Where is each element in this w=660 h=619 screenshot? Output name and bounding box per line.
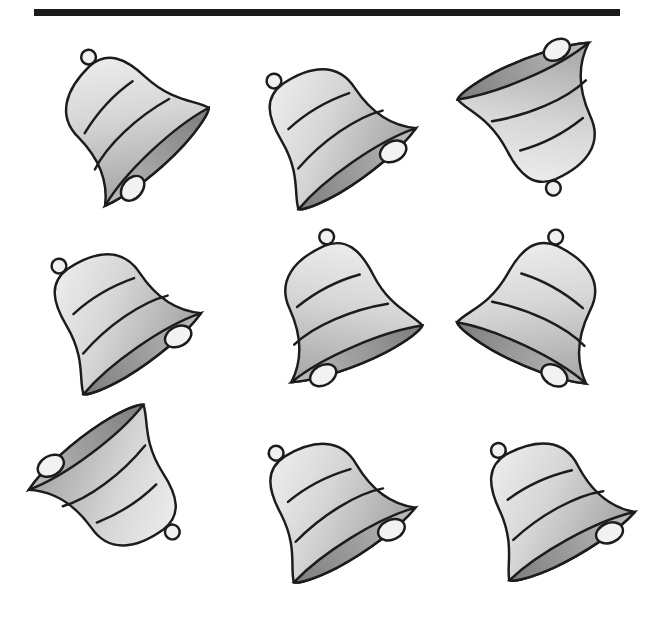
bell-icon <box>445 215 655 395</box>
bell-7 <box>10 405 220 585</box>
bell-icon <box>445 405 655 585</box>
bell-icon <box>10 405 220 585</box>
bell-3 <box>445 30 655 210</box>
bell-8 <box>225 405 435 585</box>
bell-4 <box>10 215 220 395</box>
bell-icon <box>445 30 655 210</box>
bell-icon <box>225 30 435 210</box>
bell-icon <box>10 215 220 395</box>
top-divider-bar <box>34 9 620 16</box>
bell-6 <box>445 215 655 395</box>
bell-grid <box>10 30 650 590</box>
bell-icon <box>225 215 435 395</box>
bell-2 <box>225 30 435 210</box>
bell-icon <box>10 30 220 210</box>
bell-1 <box>10 30 220 210</box>
bell-icon <box>225 405 435 585</box>
bell-5 <box>225 215 435 395</box>
bell-9 <box>445 405 655 585</box>
